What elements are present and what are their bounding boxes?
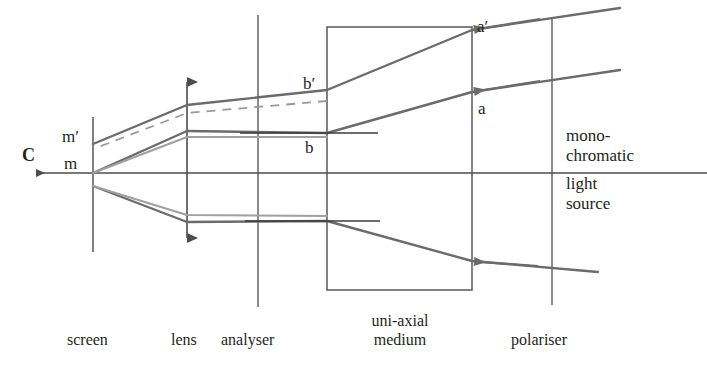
- optics-diagram: C m′ m b′ b a′ a mono- chromatic light s…: [0, 0, 707, 379]
- source-label-line4: source: [566, 195, 610, 213]
- medium-rectangle: [327, 27, 472, 290]
- point-label-m-prime: m′: [62, 128, 79, 146]
- component-label-screen: screen: [67, 331, 108, 348]
- ray-middle-a: [93, 70, 620, 173]
- point-label-a: a: [478, 100, 486, 118]
- uni-axial-medium-box: [327, 27, 472, 290]
- ray-bottom: [93, 186, 598, 272]
- ray-secondary-upper: [93, 137, 327, 173]
- component-label-medium-line1: uni-axial: [352, 312, 448, 329]
- ray-bundle: [93, 8, 620, 272]
- component-label-lens: lens: [171, 331, 197, 348]
- component-label-medium-line2: medium: [352, 331, 448, 348]
- source-label-line3: light: [566, 175, 597, 193]
- ray-middle-arrowhead: [474, 81, 540, 92]
- source-label-line1: mono-: [566, 127, 610, 145]
- component-label-analyser: analyser: [221, 331, 274, 348]
- source-label-line2: chromatic: [566, 147, 634, 165]
- point-label-a-prime: a′: [477, 18, 488, 36]
- component-label-polariser: polariser: [511, 331, 567, 348]
- ray-bottom-arrowhead: [474, 262, 538, 267]
- ray-dashed-construction: [96, 101, 327, 148]
- axis-label-c: C: [22, 146, 35, 165]
- ray-secondary-lower: [93, 186, 327, 216]
- point-label-m: m: [64, 155, 77, 173]
- point-label-b: b: [305, 139, 314, 157]
- point-label-b-prime: b′: [303, 75, 315, 93]
